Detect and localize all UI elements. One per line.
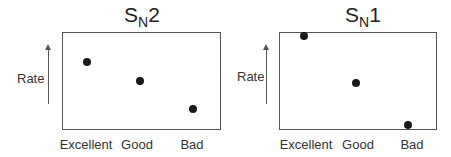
sn1-title: SN1 [345,3,381,30]
title-main: S [345,3,359,26]
sn1-panel: SN1 Rate Excellent Good Bad [0,0,451,157]
sn1-point-good [352,79,360,87]
sn1-x-label-good: Good [342,137,374,152]
sn1-x-label-bad: Bad [400,137,423,152]
title-subscript: N [359,14,369,30]
sn1-y-axis-label: Rate [237,69,264,84]
title-suffix: 1 [369,3,381,26]
sn1-up-arrow-icon [266,49,267,104]
sn1-point-excellent [300,32,308,40]
sn1-point-bad [404,121,412,129]
sn1-x-label-excellent: Excellent [280,137,333,152]
